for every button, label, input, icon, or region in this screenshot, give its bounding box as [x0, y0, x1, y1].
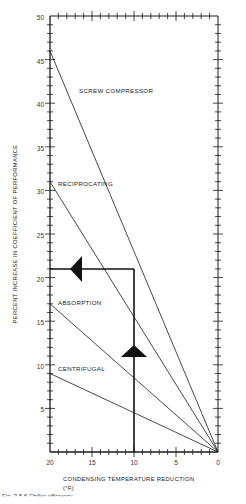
label-reciprocating: RECIPROCATING — [58, 180, 113, 187]
y-tick-25: 25 — [37, 232, 45, 239]
label-screw-compressor: SCREW COMPRESSOR — [79, 87, 153, 94]
y-tick-40: 40 — [37, 101, 45, 108]
y-tick-labels: 5 10 15 20 25 30 35 40 45 50 — [37, 14, 45, 413]
y-axis-title: PERCENT INCREASE IN COEFFICIENT OF PERFO… — [12, 145, 18, 324]
x-axis-title: CONDENSING TEMPERATURE REDUCTION — [63, 476, 194, 482]
y-tick-5: 5 — [40, 406, 44, 413]
x-tick-20: 20 — [46, 459, 54, 466]
y-tick-45: 45 — [37, 58, 45, 65]
series-labels: SCREW COMPRESSOR RECIPROCATING ABSORPTIO… — [58, 87, 153, 372]
x-tick-10: 10 — [130, 459, 138, 466]
x-tick-labels: 20 15 10 5 0 — [46, 459, 220, 466]
x-axis-unit: (°F) — [63, 485, 74, 491]
x-tick-0: 0 — [216, 459, 220, 466]
y-tick-50: 50 — [37, 14, 45, 21]
y-tick-35: 35 — [37, 145, 45, 152]
label-centrifugal: CENTRIFUGAL — [58, 365, 105, 372]
x-tick-15: 15 — [88, 459, 96, 466]
chart-canvas: 5 10 15 20 25 30 35 40 45 50 20 15 10 5 … — [0, 0, 246, 504]
arrow-up-icon — [121, 345, 147, 357]
x-tick-5: 5 — [174, 459, 178, 466]
y-tick-20: 20 — [37, 276, 45, 283]
y-tick-30: 30 — [37, 188, 45, 195]
y-tick-10: 10 — [37, 363, 45, 370]
y-tick-15: 15 — [37, 319, 45, 326]
label-absorption: ABSORPTION — [58, 299, 102, 306]
arrow-left-icon — [70, 256, 82, 282]
